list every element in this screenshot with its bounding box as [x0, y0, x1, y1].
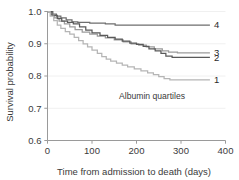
survival-chart-figure: 0.60.70.80.91.00100200300400 4321 Time f…: [0, 0, 239, 180]
x-tick-label-400: 400: [218, 145, 234, 156]
y-tick-label-0.8: 0.8: [28, 70, 41, 81]
gridlines: [48, 12, 226, 141]
axes: [44, 12, 225, 144]
curve-end-label-1: 1: [214, 74, 219, 85]
curve-end-label-2: 2: [214, 52, 219, 63]
km-curve-quartile-3: [48, 12, 210, 53]
y-tick-label-0.9: 0.9: [28, 38, 41, 49]
x-tick-label-100: 100: [84, 145, 100, 156]
y-tick-label-0.7: 0.7: [28, 103, 41, 114]
y-tick-label-0.6: 0.6: [28, 135, 41, 146]
y-tick-label-1.0: 1.0: [28, 6, 41, 17]
plot-svg: 0.60.70.80.91.00100200300400 4321 Time f…: [0, 0, 239, 180]
km-curves: [48, 12, 210, 80]
albumin-quartiles-annotation: Albumin quartiles: [119, 91, 185, 101]
curve-end-labels: 4321: [214, 19, 219, 85]
x-axis-title: Time from admission to death (days): [57, 166, 211, 177]
x-tick-label-300: 300: [173, 145, 189, 156]
tick-labels: 0.60.70.80.91.00100200300400: [28, 6, 233, 156]
x-tick-label-0: 0: [45, 145, 50, 156]
y-axis-title: Survival probability: [4, 42, 15, 122]
curve-end-label-4: 4: [214, 19, 219, 30]
x-tick-label-200: 200: [129, 145, 145, 156]
